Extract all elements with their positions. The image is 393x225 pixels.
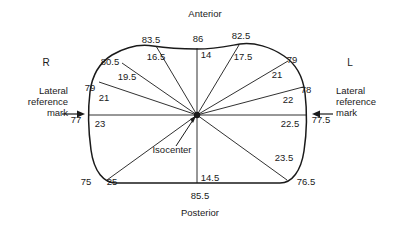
left-ref-value-77: 77	[71, 115, 82, 126]
label-right-side: R	[42, 57, 49, 69]
inner-23_5: 23.5	[275, 153, 294, 164]
left-ref-line3: mark	[10, 107, 68, 118]
outer-78: 78	[301, 85, 312, 96]
label-posterior: Posterior	[181, 208, 219, 219]
outer-75: 75	[81, 177, 92, 188]
label-left-side: L	[347, 57, 353, 69]
inner-21-right: 21	[272, 70, 283, 81]
inner-25: 25	[107, 177, 118, 188]
inner-16_5: 16.5	[147, 52, 166, 63]
inner-14: 14	[201, 50, 212, 61]
left-ref-line2: reference	[10, 96, 68, 107]
right-lateral-reference-mark: Lateral reference mark	[336, 85, 392, 119]
outer-79-left: 79	[85, 83, 96, 94]
outer-79-right: 79	[287, 55, 298, 66]
inner-19_5: 19.5	[118, 72, 137, 83]
left-lateral-reference-mark: Lateral reference mark	[10, 85, 68, 119]
label-anterior: Anterior	[188, 9, 221, 20]
diagram-canvas: Anterior Posterior R L Lateral reference…	[0, 0, 393, 225]
inner-23-left: 23	[95, 119, 106, 130]
outer-83_5: 83.5	[142, 35, 161, 46]
right-ref-value-77_5: 77.5	[312, 115, 331, 126]
inner-22: 22	[283, 95, 294, 106]
right-ref-line2: reference	[336, 96, 392, 107]
isocenter-arrowhead	[190, 116, 196, 123]
outer-82_5: 82.5	[232, 31, 251, 42]
outer-85_5: 85.5	[191, 191, 210, 202]
outer-80_5: 80.5	[101, 57, 120, 68]
right-ref-line1: Lateral	[336, 85, 392, 96]
inner-14_5: 14.5	[201, 173, 220, 184]
label-isocenter: Isocenter	[152, 145, 191, 156]
inner-22_5: 22.5	[281, 119, 300, 130]
inner-17_5: 17.5	[234, 52, 253, 63]
left-ref-line1: Lateral	[10, 85, 68, 96]
inner-21-left: 21	[99, 93, 110, 104]
outer-86: 86	[193, 34, 204, 45]
right-ref-line3: mark	[336, 107, 392, 118]
outer-76_5: 76.5	[297, 177, 316, 188]
